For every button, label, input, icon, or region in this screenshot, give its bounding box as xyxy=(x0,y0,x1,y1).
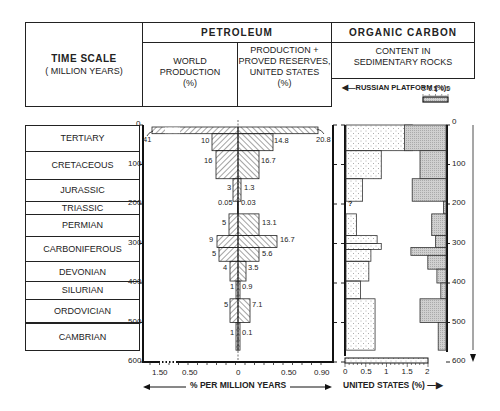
us-value-label: 0.1 xyxy=(242,328,252,337)
us-tick-1: 0.5 xyxy=(361,367,372,376)
y-tick-right-500: 500 xyxy=(452,317,465,326)
y-tick-200: 200 xyxy=(128,198,141,207)
right-arrow-icon: —▶ xyxy=(425,380,443,390)
us-value-label: 20.8 xyxy=(316,135,331,144)
us-tick-0: 0 xyxy=(343,367,347,376)
y-tick-right-100: 100 xyxy=(452,159,465,168)
us-carbon-axis-label: UNITED STATES (%) —▶ xyxy=(343,380,443,390)
russian-tick-0: 2 xyxy=(422,85,426,92)
us-value-label: 13.1 xyxy=(262,218,277,227)
us-tick-3: 1.5 xyxy=(402,367,413,376)
russian-tick-2: 1 xyxy=(434,85,438,92)
world-value-label: 3 xyxy=(227,183,231,192)
world-value-label: 4 xyxy=(223,263,227,272)
x-tick-left-1: 1.50 xyxy=(152,368,168,377)
us-value-label: 16.7 xyxy=(261,156,276,165)
world-value-label: 41 xyxy=(143,135,151,144)
world-value-label: 5 xyxy=(212,249,216,258)
x-tick-right-2: 0.90 xyxy=(314,368,330,377)
us-value-label: 0.9 xyxy=(242,282,252,291)
world-value-label: 9 xyxy=(209,235,213,244)
us-tick-2: 1 xyxy=(384,367,388,376)
y-tick-300: 300 xyxy=(128,238,141,247)
y-tick-0: 0 xyxy=(136,119,140,128)
world-value-label: 5 xyxy=(224,300,228,309)
us-value-label: 7.1 xyxy=(252,300,262,309)
world-value-label: 1 xyxy=(230,328,234,337)
y-tick-right-300: 300 xyxy=(452,238,465,247)
x-tick-right-1: 0.50 xyxy=(281,368,297,377)
y-tick-right-200: 200 xyxy=(452,198,465,207)
world-value-label: 5 xyxy=(222,218,226,227)
world-value-label: 10 xyxy=(201,136,209,145)
y-tick-right-400: 400 xyxy=(452,277,465,286)
y-tick-600: 600 xyxy=(128,356,141,365)
x-tick-left-2: 0.50 xyxy=(182,368,198,377)
us-value-label: 14.8 xyxy=(274,136,289,145)
world-value-label: 0.05 xyxy=(218,198,233,207)
y-tick-400: 400 xyxy=(128,277,141,286)
us-value-label: 16.7 xyxy=(280,235,295,244)
us-value-label: 0.03 xyxy=(241,198,256,207)
us-value-label: 3.5 xyxy=(248,263,258,272)
y-tick-right-0: 0 xyxy=(452,117,456,126)
y-tick-500: 500 xyxy=(128,317,141,326)
y-tick-right-600: 600 xyxy=(452,356,465,365)
x-tick-center: 0 xyxy=(236,368,240,377)
world-value-label: 16 xyxy=(204,156,212,165)
svg-text:?: ? xyxy=(348,200,352,207)
petroleum-x-axis-label: % PER MILLION YEARS xyxy=(190,380,286,390)
us-value-label: 5.6 xyxy=(262,249,272,258)
y-tick-100: 100 xyxy=(128,159,141,168)
us-tick-4: 2 xyxy=(425,367,429,376)
world-value-label: 1 xyxy=(230,282,234,291)
russian-tick-4: 0 xyxy=(447,85,451,92)
us-value-label: 1.3 xyxy=(244,183,254,192)
